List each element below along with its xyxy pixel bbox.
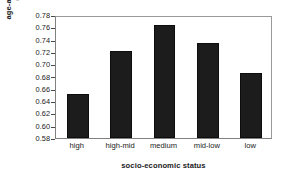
y-axis-tick-labels: 0.780.760.740.720.700.680.660.640.620.60… <box>24 16 50 139</box>
y-axis-tick-label: 0.78 <box>36 12 50 19</box>
y-axis-tick-label: 0.76 <box>36 25 50 32</box>
x-axis-tick-label: mid-low <box>194 142 220 150</box>
y-axis-tick-label: 0.64 <box>36 98 50 105</box>
y-axis-title-line-1: age-adjusted incidence <box>5 0 13 20</box>
x-axis-tick-label: high-mid <box>106 142 135 150</box>
y-axis-tick-label: 0.60 <box>36 123 50 130</box>
bar <box>154 25 176 138</box>
y-axis-title: age-adjusted incidence (per 100,000) <box>2 0 24 38</box>
y-axis-tick-mark <box>51 139 55 140</box>
x-axis-tick-label: low <box>245 142 256 150</box>
bar-chart-figure: age-adjusted incidence (per 100,000) 0.7… <box>0 0 284 185</box>
x-axis-tick-labels: highhigh-midmediummid-lowlow <box>55 142 272 156</box>
x-axis-tick-label: medium <box>150 142 177 150</box>
y-axis-tick-label: 0.74 <box>36 37 50 44</box>
bar <box>67 94 89 138</box>
bar-series <box>56 17 271 138</box>
x-axis-tick-label: high <box>70 142 84 150</box>
bar <box>110 51 132 138</box>
y-axis-tick-label: 0.70 <box>36 61 50 68</box>
bar <box>197 43 219 138</box>
y-axis-tick-label: 0.68 <box>36 74 50 81</box>
y-axis-tick-label: 0.72 <box>36 49 50 56</box>
y-axis-tick-label: 0.62 <box>36 111 50 118</box>
y-axis-tick-label: 0.66 <box>36 86 50 93</box>
y-axis-tick-label: 0.58 <box>36 135 50 142</box>
bar <box>240 73 262 138</box>
x-axis-title: socio-economic status <box>55 161 272 170</box>
plot-area <box>55 16 272 139</box>
